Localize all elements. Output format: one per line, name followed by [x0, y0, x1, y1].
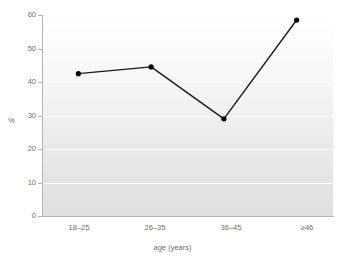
data-point-marker	[76, 71, 81, 76]
series-line	[78, 20, 296, 119]
data-point-marker	[221, 116, 226, 121]
data-point-marker	[294, 17, 299, 22]
chart-figure: 60 50 40 30 20 10 0 % 18–25 26–35 36–45 …	[0, 0, 345, 261]
data-point-marker	[149, 64, 154, 69]
data-series-layer	[0, 0, 345, 261]
series-markers	[76, 17, 299, 121]
